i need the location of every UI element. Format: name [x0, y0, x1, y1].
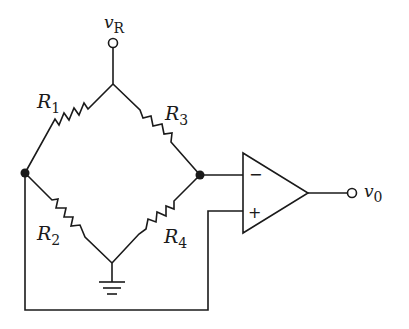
r2-label: R2: [36, 222, 60, 248]
source-label: vR: [104, 12, 125, 36]
noninverting-sign: +: [248, 203, 261, 222]
source-terminal: [109, 39, 118, 48]
output-terminal: [348, 189, 357, 198]
resistor-r2: [25, 173, 112, 263]
r4-label: R4: [163, 225, 187, 251]
r3-label: R3: [164, 102, 188, 128]
r1-label: R1: [36, 90, 60, 116]
inverting-sign: −: [249, 165, 262, 184]
resistor-r3: [113, 84, 200, 175]
output-label: v0: [364, 181, 383, 205]
ground-icon: [99, 282, 125, 294]
circuit-diagram: vR R1 R3 R2 R4 − + v0: [0, 0, 409, 329]
